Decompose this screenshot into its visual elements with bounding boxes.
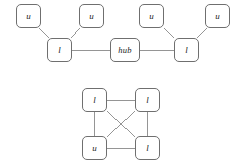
graph-node-label: l [146, 96, 149, 105]
graph-node-l[interactable]: l [47, 38, 72, 62]
graph-edge [71, 28, 80, 38]
graph-node-u[interactable]: u [82, 136, 107, 160]
graph-node-label: l [58, 46, 61, 55]
graph-node-label: u [26, 12, 31, 21]
graph-node-label: u [89, 12, 94, 21]
network-topology-figure: uuuulhublllul [0, 0, 239, 168]
graph-edge [39, 28, 48, 38]
graph-node-u[interactable]: u [79, 4, 104, 28]
graph-node-hub[interactable]: hub [110, 38, 140, 62]
graph-node-label: l [93, 96, 96, 105]
graph-node-label: hub [118, 46, 131, 55]
graph-node-label: u [92, 144, 97, 153]
graph-node-u[interactable]: u [205, 4, 230, 28]
graph-node-label: l [146, 144, 149, 153]
graph-node-l[interactable]: l [135, 88, 160, 112]
graph-node-l[interactable]: l [135, 136, 160, 160]
graph-node-label: l [185, 46, 188, 55]
graph-node-l[interactable]: l [82, 88, 107, 112]
graph-edge [164, 28, 174, 38]
graph-node-label: u [149, 12, 154, 21]
graph-node-l[interactable]: l [174, 38, 199, 62]
graph-node-u[interactable]: u [16, 4, 41, 28]
graph-node-u[interactable]: u [139, 4, 164, 28]
graph-edge [197, 28, 206, 38]
graph-node-label: u [215, 12, 220, 21]
